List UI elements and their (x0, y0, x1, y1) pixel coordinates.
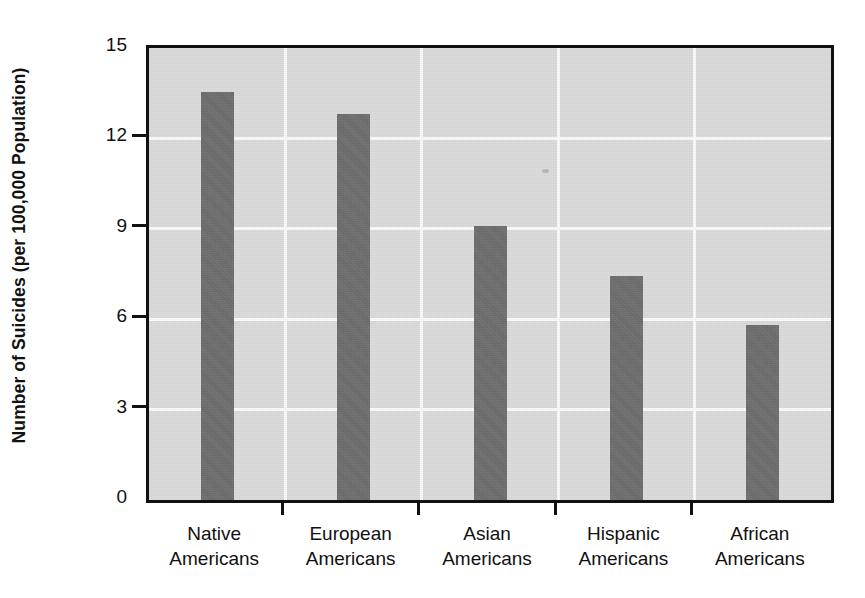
x-axis-category-label: HispanicAmericans (579, 521, 669, 571)
x-axis-tick (417, 500, 420, 515)
y-axis-tick (132, 224, 146, 227)
gridline-vertical (284, 48, 287, 500)
x-axis-category-label-line: Hispanic (579, 521, 669, 546)
y-axis-title: Number of Suicides (per 100,000 Populati… (10, 67, 31, 443)
x-axis-category-label-line: Americans (715, 546, 805, 571)
gridline-vertical (420, 48, 423, 500)
x-axis-category-label: NativeAmericans (169, 521, 259, 571)
y-axis-tick-label: 15 (106, 34, 127, 56)
x-axis-category-label-line: African (715, 521, 805, 546)
y-axis-tick (132, 315, 146, 318)
bar (474, 226, 507, 500)
x-axis-category-label-line: Asian (442, 521, 532, 546)
x-axis-category-label-line: Americans (442, 546, 532, 571)
y-axis-tick-label: 12 (106, 124, 127, 146)
bar-chart-figure: Number of Suicides (per 100,000 Populati… (0, 0, 865, 598)
bar (746, 325, 779, 500)
x-axis-category-label-line: Native (169, 521, 259, 546)
x-axis-tick (690, 500, 693, 515)
gridline-vertical (557, 48, 560, 500)
x-axis-tick (281, 500, 284, 515)
x-axis-category-label-line: Americans (169, 546, 259, 571)
plot-area (146, 45, 834, 503)
y-axis-tick-label: 9 (116, 215, 127, 237)
bar (610, 276, 643, 500)
y-axis-tick-label: 3 (116, 396, 127, 418)
x-axis-category-label-line: Americans (306, 546, 396, 571)
y-axis-tick (132, 134, 146, 137)
y-axis-tick-label: 6 (116, 305, 127, 327)
x-axis-category-label: AfricanAmericans (715, 521, 805, 571)
x-axis-category-label-line: Americans (579, 546, 669, 571)
x-axis-tick (554, 500, 557, 515)
bar (201, 92, 234, 500)
gridline-horizontal (149, 137, 831, 140)
y-axis-tick (132, 405, 146, 408)
bar (337, 114, 370, 500)
x-axis-category-label: AsianAmericans (442, 521, 532, 571)
x-axis-category-label: EuropeanAmericans (306, 521, 396, 571)
gridline-vertical (693, 48, 696, 500)
y-axis-title-container: Number of Suicides (per 100,000 Populati… (0, 0, 40, 510)
x-axis-category-label-line: European (306, 521, 396, 546)
scan-artifact-speck (542, 169, 549, 173)
y-axis-tick-label: 0 (116, 486, 127, 508)
